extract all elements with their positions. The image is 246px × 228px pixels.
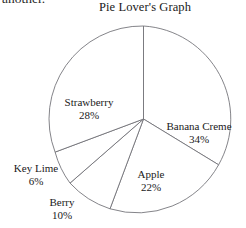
pie-label-berry: Berry 10% bbox=[32, 196, 92, 221]
pie-label-strawberry-name: Strawberry bbox=[65, 96, 114, 108]
pie-label-apple-name: Apple bbox=[138, 168, 165, 180]
pie-label-strawberry-value: 28% bbox=[46, 109, 132, 122]
pie-label-banana-creme: Banana Creme 34% bbox=[152, 120, 246, 145]
pie-label-apple-value: 22% bbox=[121, 181, 181, 194]
pie-label-apple: Apple 22% bbox=[121, 168, 181, 193]
pie-label-key-lime-name: Key Lime bbox=[14, 162, 58, 174]
pie-label-banana-creme-name: Banana Creme bbox=[166, 120, 231, 132]
pie-label-berry-name: Berry bbox=[49, 196, 74, 208]
pie-chart-figure: another. Pie Lover's Graph Strawberry 28… bbox=[0, 0, 246, 228]
pie-label-banana-creme-value: 34% bbox=[152, 133, 246, 146]
pie-label-strawberry: Strawberry 28% bbox=[46, 96, 132, 121]
pie-label-berry-value: 10% bbox=[32, 209, 92, 222]
pie-label-key-lime-value: 6% bbox=[0, 175, 72, 188]
pie-label-key-lime: Key Lime 6% bbox=[0, 162, 72, 187]
